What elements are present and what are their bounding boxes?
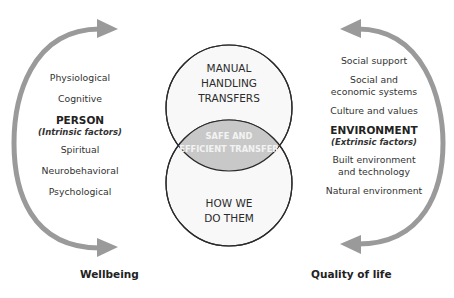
environment-factor-item: economic systems [316,86,432,98]
person-factor-item: Psychological [30,186,130,198]
environment-subheading: (Extrinsic factors) [316,136,432,148]
person-subheading: (Intrinsic factors) [30,126,130,138]
top-circle-label-line: MANUAL [179,61,279,76]
environment-factor-item: Social and [316,74,432,86]
environment-factors: Social support Social and economic syste… [316,55,432,197]
bottom-circle-label-line: DO THEM [179,211,279,226]
bottom-circle-label-line: HOW WE [179,196,279,211]
quality-of-life-outcome: Quality of life [311,268,392,280]
overlap-label-line: EFFICIENT TRANSFER [169,143,289,156]
person-factor-item: Neurobehavioral [30,165,130,177]
bottom-circle-label: HOW WE DO THEM [179,196,279,226]
environment-factor-item: Social support [316,55,432,67]
top-circle-label: MANUAL HANDLING TRANSFERS [179,61,279,106]
top-circle-label-line: TRANSFERS [179,91,279,106]
top-circle-label-line: HANDLING [179,76,279,91]
person-factor-item: Physiological [30,72,130,84]
person-factor-item: Cognitive [30,93,130,105]
environment-heading: ENVIRONMENT [316,124,432,136]
wellbeing-outcome: Wellbeing [80,268,139,280]
environment-factor-item: and technology [316,166,432,178]
environment-factor-item: Culture and values [316,105,432,117]
environment-factor-item: Built environment [316,154,432,166]
person-factors: Physiological Cognitive PERSON (Intrinsi… [30,72,130,198]
overlap-label-line: SAFE AND [169,130,289,143]
overlap-label: SAFE AND EFFICIENT TRANSFER [169,130,289,156]
environment-factor-item: Natural environment [316,185,432,197]
person-factor-item: Spiritual [30,144,130,156]
person-heading: PERSON [30,114,130,126]
